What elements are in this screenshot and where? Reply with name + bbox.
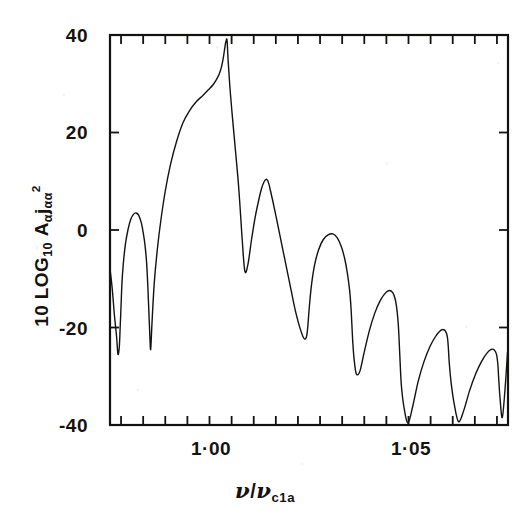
axes-frame [110,35,508,425]
plot-area [0,0,530,527]
axis-box [110,35,508,425]
axis-ticks [110,35,508,425]
data-curve [110,39,508,423]
figure-container: 40 20 0 -20 -40 1·00 1·05 10 LOG10 Aαjαα… [0,0,530,527]
